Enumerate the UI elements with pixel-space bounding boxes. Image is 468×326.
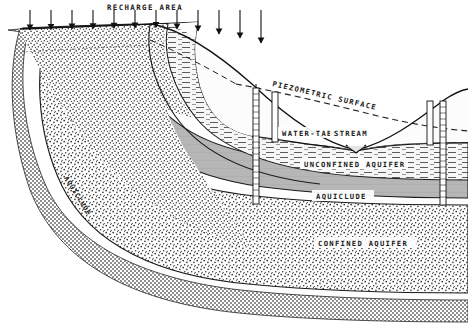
recharge-arrow: [216, 10, 223, 35]
artesian-well-left-deep[interactable]: [253, 84, 259, 204]
recharge-arrow: [237, 10, 244, 39]
cross-section-svg: RECHARGE AREA PIEZOMETRIC SURFACE WATER-…: [0, 0, 468, 326]
recharge-arrow: [258, 10, 265, 44]
aquiclude-center-label: AQUICLUDE: [316, 192, 367, 201]
artesian-well-right-deep[interactable]: [440, 101, 446, 205]
hydrogeologic-cross-section-figure: RECHARGE AREA PIEZOMETRIC SURFACE WATER-…: [0, 0, 468, 326]
observation-well-left-shallow[interactable]: [272, 92, 278, 142]
piezometric-surface-label: PIEZOMETRIC SURFACE: [272, 79, 378, 112]
unconfined-aquifer-label: UNCONFINED AQUIFER: [304, 160, 405, 169]
recharge-area-label: RECHARGE AREA: [107, 3, 183, 12]
stream-label: STREAM: [334, 129, 368, 138]
observation-well-right-shallow[interactable]: [427, 101, 433, 145]
confined-aquifer-label: CONFINED AQUIFER: [318, 239, 408, 248]
